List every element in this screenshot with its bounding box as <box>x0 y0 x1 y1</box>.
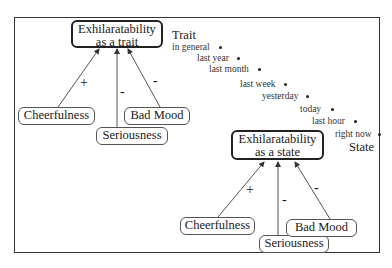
scale-item-in-general: in general <box>172 42 210 52</box>
scale-dot <box>378 133 381 136</box>
scale-item-last-hour: last hour <box>312 116 345 126</box>
scale-dot <box>219 46 222 49</box>
state-cheerfulness-node: Cheerfulness <box>180 217 255 235</box>
trait-node-line2: as a trait <box>73 36 161 49</box>
scale-dot <box>237 57 240 60</box>
state-node-line2: as a state <box>233 146 322 159</box>
trait-seriousness-label: Seriousness <box>102 128 161 142</box>
scale-state-label: State <box>349 141 374 154</box>
scale-item-right-now: right now <box>335 129 372 139</box>
trait-cheerfulness-label: Cheerfulness <box>24 108 89 122</box>
state-badmood-sign: - <box>314 181 319 195</box>
state-seriousness-node: Seriousness <box>259 235 329 253</box>
state-node: Exhilaratability as a state <box>231 130 324 160</box>
scale-item-yesterday: yesterday <box>262 91 298 101</box>
trait-seriousness-node: Seriousness <box>96 127 168 145</box>
trait-badmood-node: Bad Mood <box>124 107 190 125</box>
scale-dot <box>331 108 334 111</box>
scale-item-today: today <box>300 104 321 114</box>
scale-item-last-month: last month <box>209 64 249 74</box>
scale-dot <box>354 120 357 123</box>
trait-cheerfulness-sign: + <box>80 76 88 90</box>
state-seriousness-sign: - <box>282 193 287 207</box>
scale-trait-label: Trait <box>172 29 196 42</box>
scale-dot <box>306 95 309 98</box>
trait-node: Exhilaratability as a trait <box>71 20 163 48</box>
trait-cheerfulness-node: Cheerfulness <box>18 107 95 125</box>
state-badmood-label: Bad Mood <box>295 220 348 234</box>
scale-dot <box>258 68 261 71</box>
scale-dot <box>284 83 287 86</box>
trait-seriousness-sign: - <box>120 85 125 99</box>
scale-item-last-week: last week <box>240 79 276 89</box>
scale-item-last-year: last year <box>197 53 229 63</box>
state-badmood-node: Bad Mood <box>286 219 357 237</box>
trait-badmood-label: Bad Mood <box>130 108 183 122</box>
state-seriousness-label: Seriousness <box>264 236 323 250</box>
state-cheerfulness-sign: + <box>246 183 254 197</box>
trait-badmood-sign: - <box>153 74 158 88</box>
state-cheerfulness-label: Cheerfulness <box>185 218 250 232</box>
